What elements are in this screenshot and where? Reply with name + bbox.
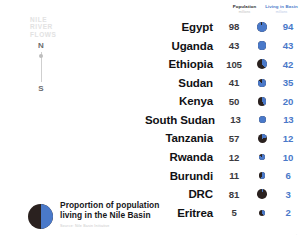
row-population-value: 12 [219,152,249,163]
row-population-value: 11 [219,170,249,181]
row-population-value: 50 [219,96,249,107]
header-population: Population millions [226,4,263,16]
row-population-value: 105 [219,59,249,70]
row-pie-cell [249,172,275,179]
row-pie-cell [249,41,275,49]
table-row: Rwanda1210 [145,148,301,167]
header-basin-title: Living in Basin [263,4,300,9]
row-basin-value: 3 [275,189,301,200]
row-country-name: DRC [145,188,219,200]
table-row: South Sudan1313 [145,111,301,130]
pie-fill [257,22,267,32]
table-row: Burundi116 [145,166,301,185]
row-country-name: South Sudan [145,114,221,126]
pie-fill [258,134,267,143]
row-country-name: Ethiopia [145,58,219,70]
row-population-value: 5 [219,207,249,218]
table-row: Kenya5020 [145,92,301,111]
header-living-in-basin: Living in Basin millions [263,4,300,16]
nile-river-flows-label: NILE RIVER FLOWS [30,16,56,38]
row-country-name: Uganda [145,40,219,52]
header-population-title: Population [226,4,263,9]
compass-south-label: S [38,84,43,93]
row-pie-cell [249,97,275,106]
row-population-value: 41 [219,77,249,88]
compass-line [41,52,42,82]
row-country-name: Sudan [145,77,219,89]
table-body: Egypt9894Uganda4343Ethiopia10542Sudan413… [145,18,301,223]
pie-fill [258,79,266,87]
row-pie-cell [249,189,275,199]
pie-fill [259,116,266,123]
table-row: Uganda4343 [145,36,301,55]
row-pie-cell [249,154,275,161]
compass-north-label: N [38,41,44,50]
proportion-pie-icon [259,116,266,123]
proportion-pie-icon [258,97,267,106]
table-row: Sudan4135 [145,73,301,92]
row-population-value: 13 [221,114,250,125]
row-pie-cell [250,116,275,123]
row-country-name: Tanzania [145,132,219,144]
row-population-value: 98 [219,21,249,32]
proportion-pie-icon [259,172,266,179]
country-table: Population millions Living in Basin mill… [145,4,301,222]
proportion-pie-icon [258,79,266,87]
pie-fill [257,189,267,199]
legend: Proportion of population living in the N… [28,201,159,231]
row-pie-cell [249,22,275,32]
row-population-value: 57 [219,133,249,144]
row-basin-value: 42 [275,59,301,70]
row-pie-cell [249,59,275,69]
row-basin-value: 20 [275,96,301,107]
row-country-name: Kenya [145,95,219,107]
row-population-value: 43 [219,40,249,51]
row-pie-cell [249,134,275,143]
proportion-pie-icon [258,134,267,143]
row-basin-value: 10 [275,152,301,163]
pie-fill [259,172,266,179]
row-country-name: Burundi [145,170,219,182]
table-header-row: Population millions Living in Basin mill… [145,4,301,16]
row-country-name: Rwanda [145,151,219,163]
pie-fill [258,97,267,106]
pie-fill [257,59,267,69]
row-population-value: 81 [219,189,249,200]
proportion-pie-icon [259,210,265,216]
legend-source: Source: Nile Basin Initiative [60,222,159,232]
row-basin-value: 94 [275,21,301,32]
row-basin-value: 43 [275,40,301,51]
row-basin-value: 6 [275,170,301,181]
pie-fill [259,210,265,216]
proportion-pie-icon [259,154,266,161]
table-row: DRC813 [145,185,301,204]
header-population-subtitle: millions [226,10,263,15]
table-row: Eritrea52 [145,204,301,223]
table-row: Ethiopia10542 [145,55,301,74]
corner-mark: · [296,233,297,237]
table-row: Tanzania5712 [145,129,301,148]
row-basin-value: 35 [275,77,301,88]
pie-fill [259,154,266,161]
proportion-pie-icon [258,41,266,49]
row-basin-value: 2 [275,207,301,218]
compass-rose: N S [33,41,49,93]
header-basin-subtitle: millions [263,10,300,15]
proportion-pie-icon [257,22,267,32]
row-pie-cell [249,210,275,216]
table-row: Egypt9894 [145,18,301,37]
proportion-pie-icon [257,189,267,199]
row-basin-value: 12 [275,133,301,144]
proportion-pie-icon [257,59,267,69]
row-pie-cell [249,79,275,87]
row-country-name: Egypt [145,21,219,33]
legend-pie-icon [28,204,53,229]
row-basin-value: 13 [276,114,301,125]
row-country-name: Eritrea [145,207,219,219]
pie-fill [258,41,266,49]
